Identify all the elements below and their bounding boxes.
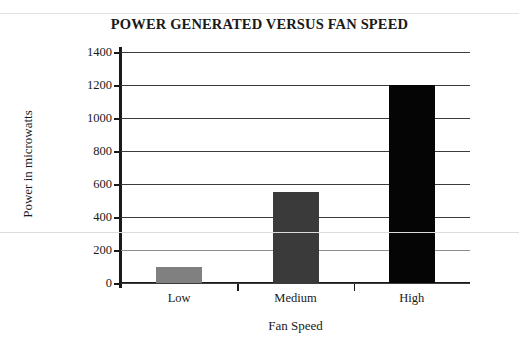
y-tick-label-200: 200: [66, 244, 112, 257]
y-tick-mark-200: [114, 250, 121, 252]
y-axis-tick-labels: 0200400600800100012001400: [64, 52, 112, 283]
x-category-label-low: Low: [134, 291, 224, 306]
x-category-label-medium: Medium: [251, 291, 341, 306]
x-tick-mark-2: [354, 284, 356, 291]
y-axis-title: Power in microwatts: [20, 79, 36, 249]
bar-high: [389, 85, 435, 283]
y-tick-label-600: 600: [66, 178, 112, 191]
plot-area: [121, 52, 470, 283]
y-tick-label-400: 400: [66, 211, 112, 224]
x-axis-title: Fan Speed: [121, 318, 470, 334]
bar-medium: [273, 192, 319, 283]
chart-screenshot: POWER GENERATED VERSUS FAN SPEED 0200400…: [0, 0, 519, 343]
y-tick-mark-800: [114, 151, 121, 153]
y-tick-label-800: 800: [66, 145, 112, 158]
y-tick-mark-1400: [114, 52, 121, 54]
chart-title: POWER GENERATED VERSUS FAN SPEED: [0, 16, 519, 33]
scan-artifact-line-top: [0, 13, 519, 14]
bar-low: [156, 267, 202, 284]
y-tick-mark-400: [114, 217, 121, 219]
y-tick-label-0: 0: [66, 277, 112, 290]
gridline-0: [121, 283, 470, 284]
x-category-label-high: High: [367, 291, 457, 306]
y-tick-label-1000: 1000: [66, 112, 112, 125]
y-tick-mark-1200: [114, 85, 121, 87]
y-tick-mark-600: [114, 184, 121, 186]
gridline-1400: [121, 52, 470, 53]
y-tick-mark-1000: [114, 118, 121, 120]
y-tick-mark-0: [114, 283, 121, 285]
x-tick-mark-1: [237, 284, 239, 291]
y-tick-label-1400: 1400: [66, 46, 112, 59]
y-tick-label-1200: 1200: [66, 79, 112, 92]
